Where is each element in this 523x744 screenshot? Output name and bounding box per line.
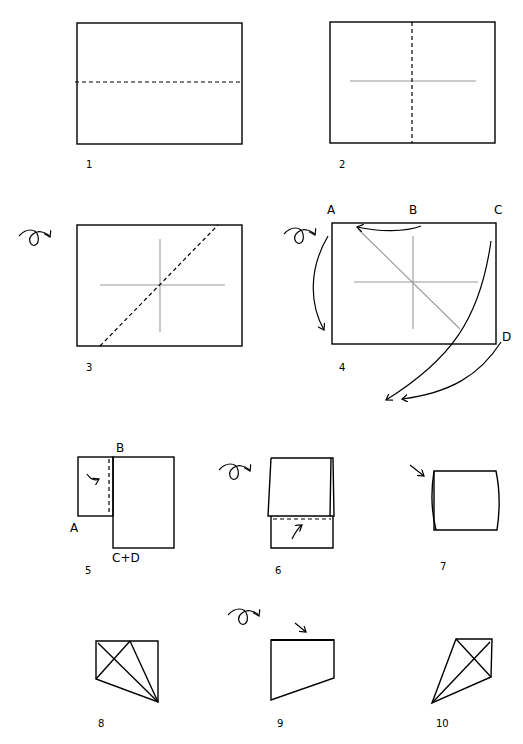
step-number: 6 (275, 565, 281, 576)
step-number: 1 (86, 159, 92, 170)
paper-square (77, 23, 242, 144)
crease-line (98, 643, 158, 702)
step-9: 9 (228, 609, 334, 729)
step-4: A B C D 4 (284, 203, 511, 400)
paper-shape (434, 471, 499, 530)
step-5: B A C+D 5 (70, 441, 174, 576)
origami-diagram: 1 2 3 A B C D 4 (0, 0, 523, 744)
step-number: 2 (339, 159, 345, 170)
fold-arrow-icon (292, 525, 302, 539)
fold-arrow-icon (386, 241, 491, 400)
fold-arrow-icon (357, 226, 421, 231)
point-label-b: B (409, 203, 417, 217)
push-arrow-icon (410, 465, 424, 476)
diagonal-crease (358, 229, 460, 329)
step-6: 6 (219, 458, 334, 576)
step-3: 3 (19, 225, 242, 373)
crease-line (432, 642, 490, 703)
step-number: 7 (440, 561, 446, 572)
paper-body (113, 457, 174, 548)
turn-over-icon (284, 228, 315, 243)
step-7: 7 (410, 465, 499, 572)
paper-square (330, 22, 495, 143)
paper-bottom (271, 516, 333, 548)
point-label-cd: C+D (112, 551, 140, 565)
step-number: 10 (436, 718, 449, 729)
point-label-a: A (327, 203, 336, 217)
fold-arrow-icon (313, 236, 328, 330)
step-8: 8 (96, 641, 158, 729)
point-label-b: B (116, 441, 124, 455)
paper-top-layer (271, 458, 334, 516)
point-label-a: A (70, 521, 79, 535)
step-number: 3 (86, 362, 92, 373)
step-number: 8 (98, 718, 104, 729)
turn-over-icon (19, 230, 50, 245)
paper-flap (78, 457, 113, 516)
paper-top-layer-edge (268, 458, 331, 516)
step-10: 10 (432, 639, 492, 729)
step-number: 5 (85, 565, 91, 576)
step-number: 9 (277, 718, 283, 729)
step-2: 2 (330, 22, 495, 170)
paper-shape (271, 640, 334, 700)
fold-arrow-icon (402, 342, 501, 399)
point-label-c: C (494, 203, 502, 217)
point-label-d: D (502, 330, 511, 344)
fold-arrow-icon (87, 474, 99, 480)
push-arrow-icon (295, 623, 306, 632)
step-number: 4 (339, 362, 345, 373)
turn-over-icon (228, 609, 259, 624)
step-1: 1 (75, 23, 242, 170)
turn-over-icon (219, 464, 250, 479)
